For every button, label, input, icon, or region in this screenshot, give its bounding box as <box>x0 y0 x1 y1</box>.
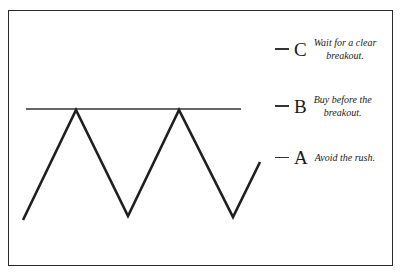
label-c: C Wait for a clear breakout. <box>275 36 376 62</box>
label-note: Buy before the breakout. <box>314 93 372 119</box>
dash-marker <box>275 157 289 158</box>
label-a: A Avoid the rush. <box>275 148 375 167</box>
dash-marker <box>275 48 289 49</box>
dash-marker <box>275 105 289 106</box>
label-letter: B <box>294 97 307 116</box>
zigzag-price-line <box>23 110 260 220</box>
label-letter: C <box>294 40 307 59</box>
label-b: B Buy before the breakout. <box>275 93 372 119</box>
label-note: Avoid the rush. <box>315 151 375 164</box>
label-note: Wait for a clear breakout. <box>314 36 377 62</box>
label-letter: A <box>294 148 308 167</box>
